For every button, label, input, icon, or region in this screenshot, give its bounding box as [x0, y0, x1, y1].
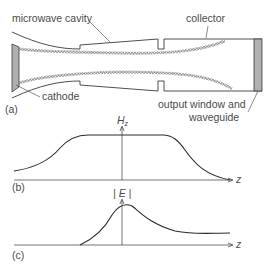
- label-microwave-cavity: microwave cavity: [12, 12, 93, 24]
- electron-beam-upper: [19, 41, 225, 53]
- panel-c-plot: [14, 199, 233, 247]
- b-x-label: z: [235, 173, 242, 185]
- panel-b-tag: (b): [12, 181, 25, 193]
- label-output-window-line2: waveguide: [188, 111, 239, 123]
- panel-c-tag: (c): [12, 249, 24, 261]
- leader-cathode: [16, 85, 40, 97]
- cathode-shape: [12, 44, 19, 92]
- c-y-label: | E |: [113, 187, 131, 199]
- leader-collector: [206, 26, 208, 38]
- panel-a-tag: (a): [5, 103, 18, 115]
- b-y-label: Hz: [117, 114, 129, 127]
- electron-beam-lower: [19, 72, 232, 89]
- gyrotron-diagram: microwave cavity collector cathode outpu…: [0, 0, 273, 271]
- leader-output-window: [248, 91, 258, 112]
- panel-b-plot: [14, 126, 233, 182]
- c-x-label: z: [235, 238, 242, 250]
- label-collector: collector: [186, 12, 226, 24]
- e-field-curve: [80, 205, 230, 245]
- label-output-window-line1: output window and: [158, 98, 246, 110]
- output-window-shape: [254, 39, 262, 91]
- label-cathode: cathode: [42, 90, 80, 102]
